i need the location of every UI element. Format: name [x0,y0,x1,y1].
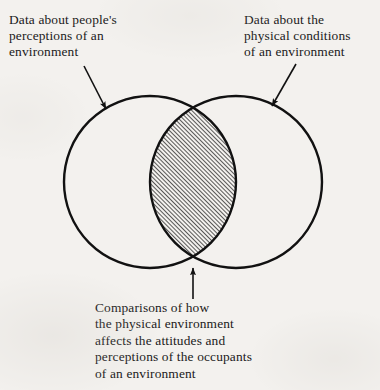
label-perceptions: Data about people's perceptions of an en… [9,12,189,61]
arrow-left [84,66,106,109]
label-physical-conditions: Data about the physical conditions of an… [244,12,380,61]
label-overlap-comparisons: Comparisons of how the physical environm… [95,300,345,382]
arrow-right [272,64,296,106]
